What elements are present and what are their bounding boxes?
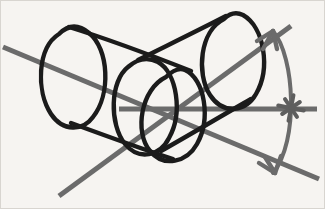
figure-canvas bbox=[1, 1, 325, 209]
figure-root bbox=[0, 0, 325, 209]
